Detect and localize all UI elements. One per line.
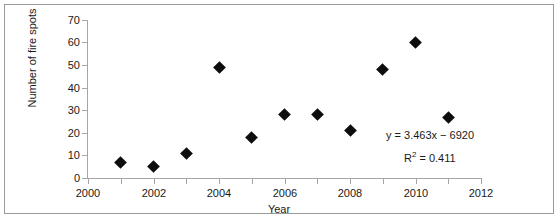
y-tick-label-0: 0 (54, 173, 80, 184)
y-tick-label-50-wrap: 50 (50, 60, 80, 71)
r-squared-label: R2 = 0.411 (404, 147, 456, 166)
y-tick-label-30-wrap: 30 (50, 105, 80, 116)
y-tick-70 (82, 20, 87, 21)
y-axis-line (87, 20, 88, 179)
y-tick-label-0-wrap: 0 (50, 173, 80, 184)
y-tick-label-20-wrap: 20 (50, 128, 80, 139)
x-tick-2005 (252, 179, 253, 184)
chart-figure: 70 60 50 40 30 20 10 0 2000 2002 2004 20… (0, 0, 558, 220)
y-axis-title: Number of fire spots (26, 0, 38, 118)
x-tick-label-2012: 2012 (459, 188, 503, 199)
x-tick-2008 (350, 179, 351, 184)
y-tick-label-40-wrap: 40 (50, 83, 80, 94)
x-axis-title: Year (0, 203, 558, 215)
x-tick-2007 (317, 179, 318, 184)
y-tick-label-60-wrap: 60 (50, 37, 80, 48)
x-tick-label-2006: 2006 (263, 188, 307, 199)
x-tick-2001 (121, 179, 122, 184)
y-tick-label-10-wrap: 10 (50, 150, 80, 161)
y-tick-label-10: 10 (54, 150, 80, 161)
x-tick-2011 (448, 179, 449, 184)
y-tick-40 (82, 88, 87, 89)
x-tick-label-2008: 2008 (328, 188, 372, 199)
y-tick-10 (82, 155, 87, 156)
x-tick-2004 (219, 179, 220, 184)
r-squared-value: = 0.411 (416, 152, 455, 164)
trendline-equation-label: y = 3.463x − 6920 (386, 128, 474, 143)
x-tick-label-2004: 2004 (197, 188, 241, 199)
y-tick-label-70-wrap: 70 (50, 15, 80, 26)
x-tick-2000 (88, 179, 89, 184)
y-tick-label-50: 50 (54, 60, 80, 71)
y-tick-label-70: 70 (54, 15, 80, 26)
x-tick-2010 (416, 179, 417, 184)
x-tick-2012 (481, 179, 482, 184)
y-tick-50 (82, 65, 87, 66)
x-tick-label-2000: 2000 (66, 188, 110, 199)
y-tick-label-60: 60 (54, 37, 80, 48)
r-squared-symbol: R (404, 152, 412, 164)
y-tick-30 (82, 110, 87, 111)
y-tick-label-40: 40 (54, 83, 80, 94)
x-tick-label-2010: 2010 (394, 188, 438, 199)
x-tick-2003 (186, 179, 187, 184)
y-tick-0 (82, 178, 87, 179)
x-tick-2006 (285, 179, 286, 184)
y-tick-label-30: 30 (54, 105, 80, 116)
y-tick-60 (82, 42, 87, 43)
y-tick-label-20: 20 (54, 128, 80, 139)
x-tick-2002 (154, 179, 155, 184)
x-tick-2009 (383, 179, 384, 184)
y-tick-20 (82, 133, 87, 134)
x-tick-label-2002: 2002 (132, 188, 176, 199)
